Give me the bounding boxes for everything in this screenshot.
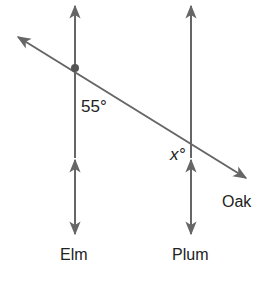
transversal-diagram: 55° x° Oak Elm Plum <box>0 0 276 288</box>
label-elm: Elm <box>60 246 88 263</box>
intersection-point <box>71 64 79 72</box>
angle-label-x: x° <box>169 145 186 164</box>
label-plum: Plum <box>172 246 208 263</box>
angle-label-55: 55° <box>81 97 107 116</box>
oak-line <box>18 37 246 178</box>
label-oak: Oak <box>222 193 252 210</box>
